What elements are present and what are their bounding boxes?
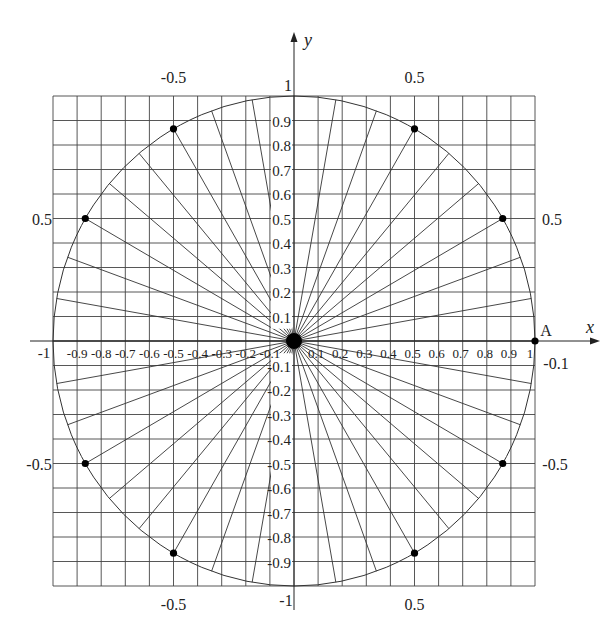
y-axis-label: y: [302, 30, 312, 50]
unit-circle-figure: -0.9-0.8-0.7-0.6-0.5-0.4-0.3-0.2-0.10.10…: [0, 0, 614, 629]
y-tick-label: 0.6: [272, 187, 291, 203]
x-tick-label: 0.9: [501, 346, 517, 361]
angle-ray: [109, 184, 294, 341]
x-tick-label: 1: [527, 346, 534, 361]
x-tick-label: -0.3: [211, 346, 232, 361]
y-tick-label: 0.5: [272, 212, 291, 228]
y-tick-label: 0.7: [272, 163, 291, 179]
x-tick-label: 0.3: [356, 346, 372, 361]
x-tick-label: -0.7: [115, 346, 136, 361]
y-tick-label: -0.8: [267, 530, 291, 546]
right-y-label: -0.5: [542, 456, 567, 473]
y-axis-max-label: 1: [284, 77, 292, 94]
y-tick-label: -0.5: [267, 457, 291, 473]
x-axis-label: x: [585, 317, 594, 337]
x-tick-label: 0.5: [404, 346, 420, 361]
y-tick-label: 0.4: [272, 236, 291, 252]
point-marker: [499, 215, 506, 222]
angle-ray: [294, 341, 479, 498]
point-marker: [411, 550, 418, 557]
bottom-x-label: -0.5: [161, 596, 186, 613]
right-y-label: 0.5: [542, 211, 562, 228]
x-tick-label: -0.5: [163, 346, 184, 361]
point-marker: [82, 215, 89, 222]
y-tick-label: -0.4: [267, 432, 291, 448]
x-tick-label: -0.2: [236, 346, 257, 361]
top-x-label: -0.5: [161, 69, 186, 86]
left-y-label: -0.5: [26, 456, 51, 473]
y-tick-label: 0.1: [272, 310, 291, 326]
x-tick-label: -0.8: [91, 346, 112, 361]
x-tick-label: -0.6: [139, 346, 160, 361]
y-tick-label: 0.3: [272, 261, 291, 277]
y-tick-label: 0.8: [272, 138, 291, 154]
y-tick-label: -0.9: [267, 555, 291, 571]
x-axis-min-label: -1: [38, 345, 51, 361]
angle-ray: [294, 184, 479, 341]
y-tick-label: -0.3: [267, 408, 291, 424]
y-tick-label: -0.2: [267, 383, 291, 399]
y-tick-label: 0.2: [272, 285, 291, 301]
top-x-label: 0.5: [405, 69, 425, 86]
y-axis-arrow-icon: [291, 32, 298, 42]
point-marker: [170, 550, 177, 557]
x-tick-label: 0.1: [308, 346, 324, 361]
x-axis-arrow-icon: [590, 338, 600, 345]
y-tick-label: -0.6: [267, 481, 291, 497]
axes: [30, 32, 600, 610]
x-tick-label: -0.9: [67, 346, 88, 361]
left-y-label: 0.5: [32, 211, 52, 228]
x-tick-label: 0.6: [428, 346, 445, 361]
y-tick-label: -0.7: [267, 506, 291, 522]
point-marker: [499, 460, 506, 467]
point-marker: [411, 125, 418, 132]
x-tick-label: 0.2: [332, 346, 348, 361]
angle-ray: [139, 153, 294, 341]
right-y-label: -0.1: [543, 355, 568, 372]
point-marker: [531, 337, 538, 344]
point-marker: [82, 460, 89, 467]
bottom-x-label: 0.5: [405, 596, 425, 613]
y-axis-min-label: -1: [279, 592, 292, 609]
angle-ray: [294, 153, 449, 341]
point-a-label: A: [540, 322, 552, 339]
center-point: [286, 333, 302, 349]
x-tick-label: 0.4: [380, 346, 397, 361]
y-tick-label: -0.1: [267, 359, 291, 375]
angle-ray: [294, 341, 449, 529]
y-tick-label: 0.9: [272, 114, 291, 130]
x-tick-label: -0.4: [187, 346, 208, 361]
x-tick-label: 0.7: [453, 346, 470, 361]
x-tick-label: 0.8: [477, 346, 493, 361]
point-marker: [170, 125, 177, 132]
